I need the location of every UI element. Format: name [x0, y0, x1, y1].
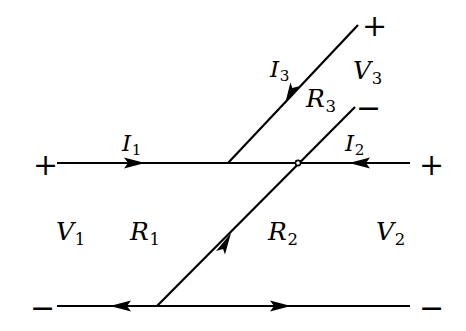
current-label-i3: I3: [270, 58, 289, 84]
wire-upper-diagonal: [228, 25, 358, 163]
resistance-label-r3: R3: [306, 86, 336, 115]
terminal-minus-branch: −: [356, 93, 381, 123]
terminal-minus-right-bottom: −: [419, 293, 444, 323]
voltage-label-v3: V3: [353, 58, 382, 87]
terminal-plus-right-top: +: [419, 150, 444, 180]
voltage-label-v1: V1: [56, 219, 85, 248]
arrow-i3-icon: [285, 83, 299, 104]
circuit-wires-canvas: [0, 0, 466, 331]
wire-lower-diagonal: [157, 107, 355, 306]
resistance-label-r2: R2: [268, 219, 298, 248]
terminal-plus-upper-branch: +: [362, 11, 387, 41]
current-label-i2: I2: [345, 132, 364, 158]
terminal-plus-left-top: +: [33, 150, 58, 180]
circuit-diagram: + + + − − − V1 V2 V3 I1 I2 I3 R1 R2 R3: [0, 0, 466, 331]
voltage-label-v2: V2: [376, 219, 405, 248]
terminal-minus-left-bottom: −: [30, 293, 55, 323]
resistance-label-r1: R1: [130, 219, 160, 248]
node-crossing-dot: [295, 160, 300, 165]
current-label-i1: I1: [122, 132, 141, 158]
